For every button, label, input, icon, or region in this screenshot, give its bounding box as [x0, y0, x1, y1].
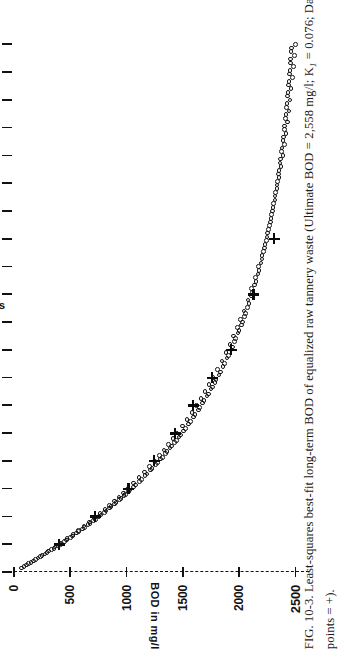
- bod-tick: [295, 567, 297, 577]
- curve-point: [289, 46, 294, 51]
- time-major-tick: [2, 293, 12, 295]
- bod-tick: [13, 567, 15, 577]
- curve-point: [237, 328, 242, 333]
- time-minor-tick: [2, 377, 12, 379]
- time-major-tick: [2, 127, 12, 129]
- bod-tick-label: 0: [7, 585, 21, 591]
- curve-point: [271, 201, 276, 206]
- time-major-tick: [2, 516, 12, 518]
- plot-area: 024681012141618 05001000150020002500 Tim…: [0, 0, 344, 590]
- curve-point: [206, 392, 211, 397]
- bod-tick: [69, 567, 71, 577]
- curve-point: [254, 279, 259, 284]
- data-point-plus: [123, 483, 134, 494]
- bod-tick: [238, 567, 240, 577]
- curve-point: [218, 370, 223, 375]
- curve-point: [240, 320, 245, 325]
- caption-text-b: = 0.076; Data: [302, 0, 316, 63]
- curve-point: [257, 268, 262, 273]
- curve-point: [288, 61, 293, 66]
- curve-point: [24, 563, 29, 568]
- figure-caption: FIG. 10-3. Least-squares best-fit long-t…: [302, 0, 342, 659]
- curve-point: [286, 90, 291, 95]
- time-major-tick: [2, 460, 12, 462]
- bod-tick-label: 500: [63, 585, 77, 604]
- caption-subscript: 1: [308, 63, 318, 68]
- curve-point: [278, 157, 283, 162]
- caption-text-a: FIG. 10-3. Least-squares best-fit long-t…: [302, 67, 316, 649]
- curve-point: [165, 449, 170, 454]
- time-minor-tick: [2, 432, 12, 434]
- time-minor-tick: [2, 266, 12, 268]
- data-point-plus: [269, 233, 280, 244]
- curve-point: [262, 246, 267, 251]
- data-point-plus: [170, 428, 181, 439]
- curve-point: [267, 223, 272, 228]
- figure-page: 024681012141618 05001000150020002500 Tim…: [0, 0, 344, 659]
- time-minor-tick: [2, 155, 12, 157]
- time-major-tick: [2, 571, 12, 573]
- time-major-tick: [2, 71, 12, 73]
- curve-point: [233, 336, 238, 341]
- time-minor-tick: [2, 488, 12, 490]
- curve-point: [243, 311, 248, 316]
- time-major-tick: [2, 182, 12, 184]
- bod-tick: [126, 567, 128, 577]
- data-point-plus: [54, 539, 65, 550]
- curve-point: [139, 477, 144, 482]
- bod-tick-label: 1500: [176, 585, 190, 611]
- data-point-plus: [90, 511, 101, 522]
- curve-point: [275, 179, 280, 184]
- curve-point: [288, 68, 293, 73]
- data-point-plus: [207, 372, 218, 383]
- data-point-plus: [248, 289, 259, 300]
- curve-point: [183, 426, 188, 431]
- curve-point: [285, 101, 290, 106]
- data-point-plus: [188, 400, 199, 411]
- data-point-plus: [226, 344, 237, 355]
- curve-point: [261, 249, 266, 254]
- curve-point: [31, 559, 36, 564]
- curve-point: [279, 149, 284, 154]
- curve-point: [210, 385, 215, 390]
- curve-point: [287, 79, 292, 84]
- time-minor-tick: [2, 543, 12, 545]
- time-major-tick: [2, 238, 12, 240]
- time-minor-tick: [2, 321, 12, 323]
- plot-canvas: 024681012141618 05001000150020002500 Tim…: [0, 0, 344, 590]
- caption-line-1: FIG. 10-3. Least-squares best-fit long-t…: [300, 9, 321, 649]
- bod-axis-line: [14, 571, 309, 572]
- bod-tick-label: 2000: [232, 585, 246, 611]
- curve-point: [260, 257, 265, 262]
- curve-point: [202, 398, 207, 403]
- time-major-tick: [2, 349, 12, 351]
- time-minor-tick: [2, 99, 12, 101]
- curve-point: [247, 301, 252, 306]
- curve-point: [38, 554, 43, 559]
- curve-point: [259, 261, 264, 266]
- x-axis-title: Time in doys: [0, 299, 5, 311]
- curve-point: [188, 419, 193, 424]
- bod-tick: [182, 567, 184, 577]
- curve-point: [273, 190, 278, 195]
- caption-line-2: points = +).: [321, 9, 341, 649]
- curve-point: [277, 168, 282, 173]
- curve-point: [193, 412, 198, 417]
- curve-point: [222, 361, 227, 366]
- data-point-plus: [149, 455, 160, 466]
- curve-point: [281, 135, 286, 140]
- y-axis-title: BOD in mg/l: [149, 582, 161, 649]
- curve-point: [284, 112, 289, 117]
- time-major-tick: [2, 404, 12, 406]
- curve-point: [269, 212, 274, 217]
- bod-tick-label: 1000: [120, 585, 134, 611]
- curve-point: [282, 124, 287, 129]
- time-minor-tick: [2, 210, 12, 212]
- curve-point: [145, 472, 150, 477]
- time-minor-tick: [2, 43, 12, 45]
